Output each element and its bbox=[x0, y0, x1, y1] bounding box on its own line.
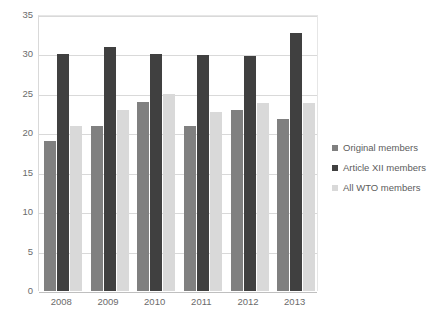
bar bbox=[257, 103, 269, 291]
chart-legend: Original membersArticle XII membersAll W… bbox=[332, 142, 432, 202]
legend-item[interactable]: Original members bbox=[332, 142, 432, 153]
y-tick-label: 10 bbox=[3, 207, 33, 217]
bar bbox=[91, 126, 103, 291]
bar bbox=[303, 103, 315, 291]
y-tick-label: 20 bbox=[3, 128, 33, 138]
bar bbox=[184, 126, 196, 291]
legend-label: Original members bbox=[343, 142, 418, 153]
legend-swatch-icon bbox=[332, 165, 338, 171]
plot-area bbox=[38, 15, 318, 291]
legend-item[interactable]: Article XII members bbox=[332, 162, 432, 173]
legend-swatch-icon bbox=[332, 145, 338, 151]
bar bbox=[44, 141, 56, 291]
bar bbox=[150, 54, 162, 291]
y-tick-label: 15 bbox=[3, 168, 33, 178]
bar bbox=[231, 110, 243, 291]
y-tick-label: 25 bbox=[3, 89, 33, 99]
bar bbox=[244, 56, 256, 291]
x-tick-label: 2008 bbox=[38, 296, 84, 308]
x-tick-label: 2012 bbox=[225, 296, 271, 308]
y-tick-label: 5 bbox=[3, 247, 33, 257]
bar bbox=[163, 94, 175, 291]
gridline bbox=[39, 292, 317, 293]
y-tick-label: 35 bbox=[3, 10, 33, 20]
bar bbox=[277, 119, 289, 291]
bar bbox=[210, 112, 222, 291]
x-tick-label: 2009 bbox=[85, 296, 131, 308]
x-tick-label: 2013 bbox=[272, 296, 318, 308]
x-axis: 200820092010201120122013 bbox=[38, 296, 318, 312]
legend-label: All WTO members bbox=[343, 182, 420, 193]
bar-group bbox=[182, 16, 229, 291]
y-tick-label: 0 bbox=[3, 286, 33, 296]
y-axis: 05101520253035 bbox=[0, 15, 33, 291]
bar-group bbox=[89, 16, 136, 291]
bar bbox=[57, 54, 69, 291]
legend-label: Article XII members bbox=[343, 162, 426, 173]
bar bbox=[70, 126, 82, 291]
bar-group bbox=[229, 16, 276, 291]
x-tick-label: 2011 bbox=[178, 296, 224, 308]
bar bbox=[137, 102, 149, 291]
bar-group bbox=[42, 16, 89, 291]
bar-group bbox=[275, 16, 322, 291]
bar-group bbox=[135, 16, 182, 291]
x-tick-label: 2010 bbox=[132, 296, 178, 308]
bar-chart: 05101520253035 200820092010201120122013 … bbox=[0, 0, 435, 331]
bar bbox=[117, 110, 129, 291]
bar bbox=[290, 33, 302, 291]
legend-swatch-icon bbox=[332, 185, 338, 191]
legend-item[interactable]: All WTO members bbox=[332, 182, 432, 193]
bar bbox=[197, 55, 209, 291]
y-tick-label: 30 bbox=[3, 49, 33, 59]
bar bbox=[104, 47, 116, 291]
bars-layer bbox=[39, 16, 317, 291]
